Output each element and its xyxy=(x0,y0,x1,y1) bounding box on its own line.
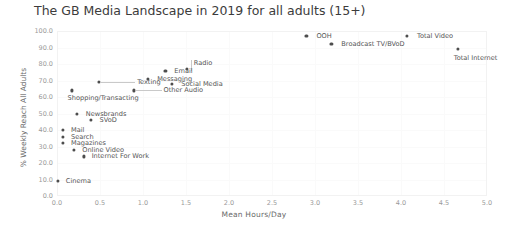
y-gridline xyxy=(58,180,486,181)
y-gridline xyxy=(58,48,486,49)
data-point-label: Cinema xyxy=(66,178,91,185)
y-gridline xyxy=(58,130,486,131)
y-tick-label: 10.0 xyxy=(39,176,53,184)
y-tick-label: 30.0 xyxy=(39,143,53,151)
data-point-label: Total Video xyxy=(417,33,453,40)
label-leader-line xyxy=(136,90,162,91)
y-tick-label: 60.0 xyxy=(39,93,53,101)
data-point-label: Radio xyxy=(194,60,213,67)
x-tick-label: 3.0 xyxy=(310,199,320,207)
x-tick-label: 4.5 xyxy=(439,199,449,207)
x-tick-label: 2.5 xyxy=(267,199,277,207)
data-point-label: Email xyxy=(174,68,192,75)
x-tick-label: 4.0 xyxy=(396,199,406,207)
data-point-label: Texting xyxy=(137,79,161,86)
x-tick-label: 2.0 xyxy=(224,199,234,207)
x-tick-label: 5.0 xyxy=(482,199,492,207)
y-tick-label: 80.0 xyxy=(39,60,53,68)
y-tick-label: 90.0 xyxy=(39,44,53,52)
data-point-label: Total Internet xyxy=(454,55,498,62)
y-gridline xyxy=(58,163,486,164)
data-point-label: OOH xyxy=(316,33,331,40)
x-axis-title: Mean Hours/Day xyxy=(0,210,508,219)
x-tick-label: 0.5 xyxy=(95,199,105,207)
data-point-label: Internet For Work xyxy=(92,153,149,160)
y-tick-label: 70.0 xyxy=(39,77,53,85)
y-tick-label: 50.0 xyxy=(39,110,53,118)
y-tick-label: 40.0 xyxy=(39,126,53,134)
x-tick-label: 1.5 xyxy=(181,199,191,207)
y-tick-label: 20.0 xyxy=(39,159,53,167)
media-landscape-scatter-chart: The GB Media Landscape in 2019 for all a… xyxy=(0,0,508,236)
y-tick-label: 100.0 xyxy=(34,27,53,35)
y-axis-title: % Weekly Reach All Adults xyxy=(19,48,28,188)
data-point-label: Other Audio xyxy=(164,87,204,94)
data-point-label: Broadcast TV/BVoD xyxy=(341,41,404,48)
label-leader-line xyxy=(101,82,135,83)
x-tick-label: 1.0 xyxy=(138,199,148,207)
x-tick-label: 0.0 xyxy=(52,199,62,207)
chart-title: The GB Media Landscape in 2019 for all a… xyxy=(34,3,366,18)
data-point-label: SVoD xyxy=(100,117,117,124)
data-point-label: Shopping/Transacting xyxy=(68,95,139,102)
y-gridline xyxy=(58,64,486,65)
x-tick-label: 3.5 xyxy=(353,199,363,207)
